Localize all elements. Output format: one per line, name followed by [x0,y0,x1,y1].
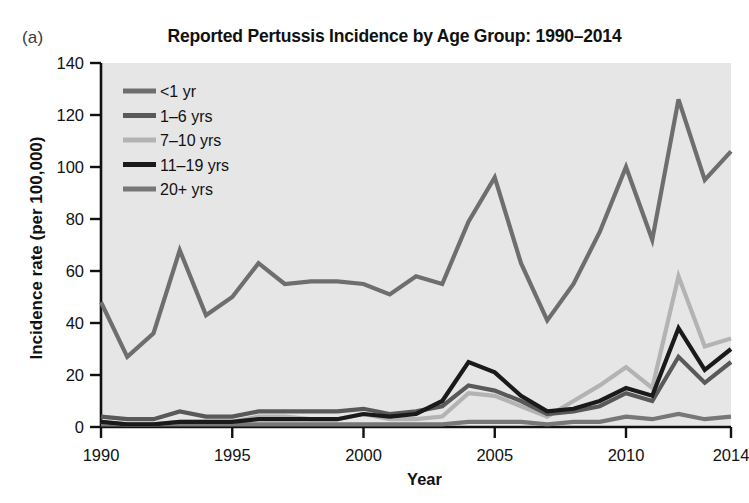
y-tick-label: 100 [56,158,84,176]
legend-label-1: <1 yr [160,83,197,100]
x-tick-label: 2014 [713,446,749,464]
y-axis-ticks: 020406080100120140 [56,54,101,436]
figure-panel: (a) Reported Pertussis Incidence by Age … [0,0,749,503]
legend-label-5: 20+ yrs [160,181,213,198]
legend-label-4: 11–19 yrs [160,157,229,174]
y-tick-label: 120 [56,106,84,124]
x-axis-ticks: 199019952000200520102014 [83,427,749,464]
x-tick-label: 2000 [345,446,382,464]
x-tick-label: 1995 [214,446,251,464]
legend-label-3: 7–10 yrs [160,132,221,149]
x-tick-label: 2005 [476,446,513,464]
y-tick-label: 80 [66,210,84,228]
x-tick-label: 2010 [608,446,645,464]
legend-label-2: 1–6 yrs [160,108,212,125]
y-tick-label: 20 [66,366,84,384]
y-tick-label: 60 [66,262,84,280]
y-tick-label: 0 [75,418,84,436]
y-tick-label: 140 [56,54,84,72]
y-tick-label: 40 [66,314,84,332]
x-tick-label: 1990 [83,446,120,464]
line-chart: 020406080100120140 199019952000200520102… [0,0,749,503]
